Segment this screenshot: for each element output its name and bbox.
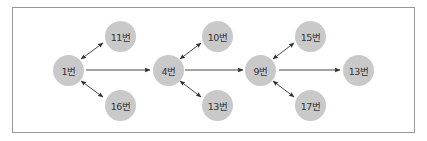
node-label: 16번 xyxy=(111,99,131,113)
node-9: 9번 xyxy=(245,55,276,86)
node-label: 10번 xyxy=(208,30,228,44)
node-label: 13번 xyxy=(208,99,228,113)
node-1: 1번 xyxy=(53,55,84,86)
node-label: 15번 xyxy=(301,30,321,44)
node-17: 17번 xyxy=(295,90,326,121)
edge-9-15 xyxy=(273,43,294,59)
edge-4-10 xyxy=(180,43,201,59)
node-11: 11번 xyxy=(105,21,136,52)
edge-4-13 xyxy=(180,81,201,97)
node-16: 16번 xyxy=(105,90,136,121)
node-label: 1번 xyxy=(61,64,75,78)
node-4: 4번 xyxy=(153,55,184,86)
edge-9-17 xyxy=(273,81,294,97)
node-label: 9번 xyxy=(253,64,267,78)
node-13-lower: 13번 xyxy=(202,90,233,121)
node-label: 11번 xyxy=(111,30,131,44)
edge-1-16 xyxy=(81,81,103,97)
node-label: 4번 xyxy=(161,64,175,78)
node-15: 15번 xyxy=(295,21,326,52)
node-label: 13번 xyxy=(349,64,369,78)
node-13-right: 13번 xyxy=(343,55,374,86)
node-label: 17번 xyxy=(301,99,321,113)
node-10: 10번 xyxy=(202,21,233,52)
edge-1-11 xyxy=(81,43,103,59)
